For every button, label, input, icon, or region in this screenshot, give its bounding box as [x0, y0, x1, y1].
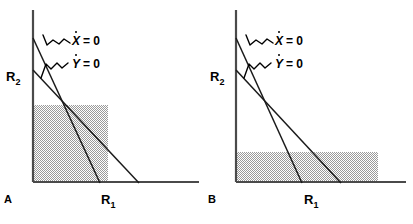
y-nullcline-label-b: Y= 0 [275, 58, 303, 70]
x-axis-label-text-b: R [304, 192, 313, 207]
x-axis-label-a: R1 [101, 193, 115, 210]
x-equation-a: = 0 [83, 34, 100, 48]
y-axis-label-text-a: R [6, 69, 15, 84]
x-dot-symbol-b: X [275, 35, 283, 47]
y-nullcline-label-a: Y= 0 [72, 58, 100, 70]
y-symbol-b: Y [275, 57, 283, 71]
x-equation-b: = 0 [286, 34, 303, 48]
y-dot-symbol-a: Y [72, 58, 80, 70]
y-nullcline-leader-b [244, 63, 271, 78]
shaded-region-a [33, 105, 108, 182]
x-symbol-b: X [275, 34, 283, 48]
panel-a: X= 0 Y= 0 R2 R1 A [0, 0, 207, 224]
panel-letter-b: B [208, 194, 216, 205]
y-axis-label-a: R2 [6, 70, 20, 87]
panel-letter-a: A [4, 194, 12, 205]
overdot-icon [75, 31, 77, 33]
y-axis-label-sub-a: 2 [15, 77, 20, 87]
y-dot-symbol-b: Y [275, 58, 283, 70]
y-axis-label-b: R2 [210, 70, 224, 87]
y-axis-label-text-b: R [210, 69, 219, 84]
panel-b-plot [206, 0, 413, 224]
x-nullcline-leader-b [246, 35, 273, 45]
figure-root: X= 0 Y= 0 R2 R1 A [0, 0, 413, 224]
panel-b: X= 0 Y= 0 R2 R1 B [206, 0, 413, 224]
y-equation-b: = 0 [286, 57, 303, 71]
overdot-icon [75, 54, 77, 56]
x-axis-label-text-a: R [101, 192, 110, 207]
y-axis-label-sub-b: 2 [219, 77, 224, 87]
x-axis-label-sub-a: 1 [110, 200, 115, 210]
x-symbol-a: X [72, 34, 80, 48]
y-equation-a: = 0 [83, 57, 100, 71]
x-dot-symbol-a: X [72, 35, 80, 47]
overdot-icon [278, 54, 280, 56]
x-nullcline-leader-a [43, 35, 70, 45]
panel-a-plot [0, 0, 207, 224]
x-axis-label-b: R1 [304, 193, 318, 210]
shaded-region-b [236, 152, 378, 182]
overdot-icon [278, 31, 280, 33]
y-nullcline-leader-a [41, 63, 68, 78]
x-nullcline-label-b: X= 0 [275, 35, 303, 47]
x-axis-label-sub-b: 1 [313, 200, 318, 210]
y-symbol-a: Y [72, 57, 80, 71]
x-nullcline-label-a: X= 0 [72, 35, 100, 47]
